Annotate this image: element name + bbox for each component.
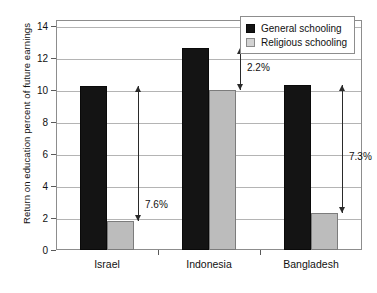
y-axis-tick-label: 4	[8, 181, 48, 192]
gridline	[57, 59, 361, 60]
y-axis-tick	[51, 186, 56, 187]
bar-israel-religious	[107, 221, 134, 250]
x-axis-tick	[158, 250, 159, 255]
legend-item-religious: Religious schooling	[246, 35, 347, 49]
legend-label-religious: Religious schooling	[261, 37, 347, 48]
x-axis-label-bangladesh: Bangladesh	[251, 258, 371, 270]
bar-bangladesh-general	[284, 85, 311, 250]
bar-chart-figure: Return on education percent of future ea…	[0, 0, 377, 293]
legend-swatch-religious-icon	[246, 38, 255, 47]
arrow-head-down-icon	[237, 84, 243, 90]
y-axis-tick	[51, 90, 56, 91]
annotation-label-bangladesh: 7.3%	[349, 151, 372, 162]
legend-label-general: General schooling	[261, 23, 342, 34]
y-axis-tick	[51, 250, 56, 251]
bar-israel-general	[80, 86, 107, 250]
legend-item-general: General schooling	[246, 21, 347, 35]
bar-indonesia-religious	[209, 90, 236, 250]
bar-indonesia-general	[182, 48, 209, 250]
y-axis-tick-label: 6	[8, 149, 48, 160]
y-axis-tick	[51, 26, 56, 27]
annotation-arrow-indonesia	[237, 48, 244, 90]
arrow-shaft	[138, 86, 139, 221]
arrow-head-down-icon	[135, 215, 141, 221]
y-axis-tick-label: 2	[8, 213, 48, 224]
y-axis-tick	[51, 122, 56, 123]
arrow-head-down-icon	[339, 207, 345, 213]
y-axis-tick-label: 10	[8, 85, 48, 96]
y-axis-tick	[51, 58, 56, 59]
y-axis-tick-label: 0	[8, 245, 48, 256]
y-axis-tick-label: 14	[8, 21, 48, 32]
bar-bangladesh-religious	[311, 213, 338, 250]
y-axis-tick-label: 8	[8, 117, 48, 128]
arrow-shaft	[342, 85, 343, 213]
x-axis-tick	[260, 250, 261, 255]
chart-legend: General schooling Religious schooling	[240, 16, 355, 54]
annotation-label-israel: 7.6%	[145, 199, 168, 210]
annotation-arrow-bangladesh	[339, 85, 346, 213]
y-axis-tick	[51, 154, 56, 155]
y-axis-tick-label: 12	[8, 53, 48, 64]
annotation-arrow-israel	[135, 86, 142, 221]
legend-swatch-general-icon	[246, 24, 255, 33]
y-axis-tick	[51, 218, 56, 219]
annotation-label-indonesia: 2.2%	[247, 62, 270, 73]
